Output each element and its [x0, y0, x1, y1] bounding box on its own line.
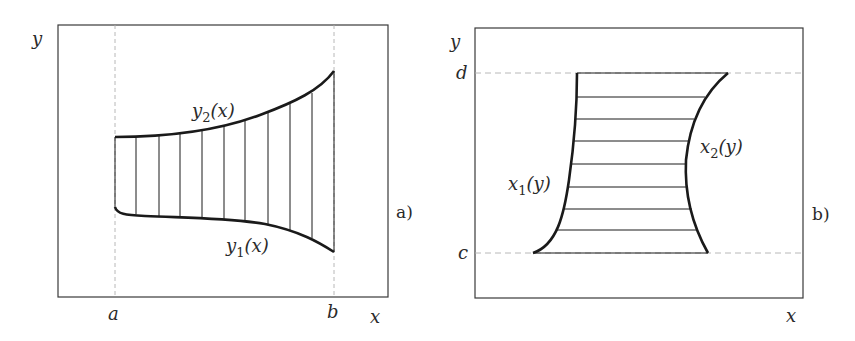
diagram-canvas: y x a b a) y2(x) y1(x) [0, 0, 855, 341]
horizontal-hatching [533, 73, 728, 253]
panel-b-x-axis-label: x [786, 305, 796, 326]
bound-b-label: b [327, 301, 339, 322]
panel-a-frame [58, 25, 388, 297]
panel-a-y-axis-label: y [31, 28, 43, 49]
lower-curve-label: y1(x) [225, 235, 269, 260]
right-curve-x2 [686, 73, 728, 253]
panel-a-x-axis-label: x [370, 306, 380, 327]
panel-b-frame [475, 28, 803, 298]
panel-b-tag: b) [812, 204, 830, 224]
right-curve-label: x2(y) [700, 136, 743, 161]
bound-d-label: d [456, 62, 468, 83]
panel-a-tag: a) [396, 202, 413, 222]
panel-a: y x a b a) y2(x) y1(x) [31, 25, 413, 327]
upper-curve-label: y2(x) [191, 100, 235, 125]
panel-b-y-axis-label: y [449, 31, 461, 52]
left-curve-x1 [533, 73, 577, 253]
left-curve-label: x1(y) [508, 173, 551, 198]
panel-b: y x d c b) x1(y) x2(y) [449, 28, 830, 326]
bound-a-label: a [108, 303, 119, 324]
bound-c-label: c [458, 242, 468, 263]
